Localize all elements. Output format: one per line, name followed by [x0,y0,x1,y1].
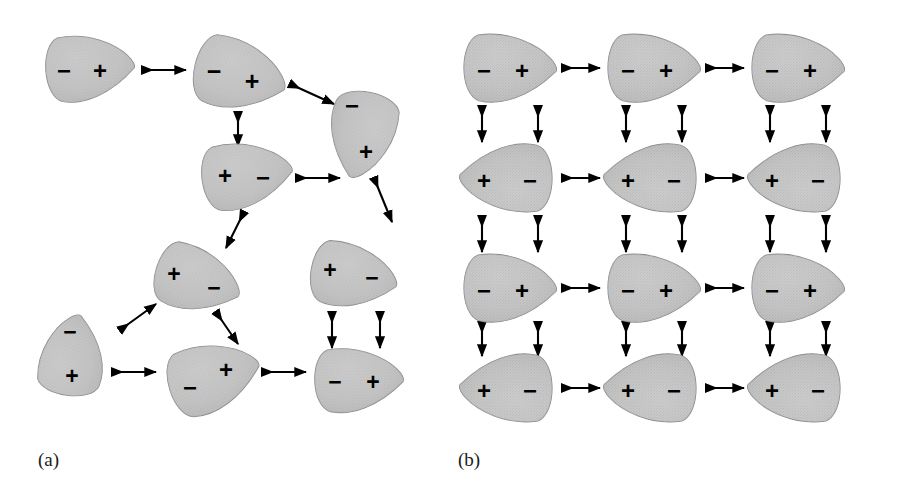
dipole-diagram: −+−+−+−+−+−+−+−+−+ −+−+−+−+−+−+−+−+−+−+−… [0,0,900,492]
plus-sign: + [167,261,180,287]
plus-sign: + [765,167,779,194]
minus-sign: − [523,377,537,404]
minus-sign: − [328,369,341,395]
minus-sign: − [63,319,76,345]
minus-sign: − [667,377,681,404]
plus-sign: + [803,277,817,304]
plus-sign: + [803,57,817,84]
plus-sign: + [218,162,232,189]
minus-sign: − [621,57,635,84]
minus-sign: − [256,164,270,191]
minus-sign: − [667,167,681,194]
minus-sign: − [345,92,359,119]
minus-sign: − [765,57,779,84]
plus-sign: + [359,138,373,165]
minus-sign: − [207,57,222,85]
plus-sign: + [65,363,78,389]
minus-sign: − [811,167,825,194]
figure-container: −+−+−+−+−+−+−+−+−+ −+−+−+−+−+−+−+−+−+−+−… [0,0,900,492]
panel-b-label: (b) [458,449,480,471]
plus-sign: + [245,67,260,95]
plus-sign: + [621,167,635,194]
plus-sign: + [366,369,379,395]
minus-sign: − [365,265,378,291]
plus-sign: + [659,277,673,304]
plus-sign: + [621,377,635,404]
plus-sign: + [219,356,233,383]
panel-a-label: (a) [38,449,59,471]
plus-sign: + [323,257,336,283]
minus-sign: − [477,57,491,84]
minus-sign: − [207,275,220,301]
plus-sign: + [659,57,673,84]
plus-sign: + [765,377,779,404]
minus-sign: − [765,277,779,304]
minus-sign: − [57,57,71,84]
plus-sign: + [477,167,491,194]
plus-sign: + [515,57,529,84]
minus-sign: − [523,167,537,194]
plus-sign: + [93,57,107,84]
minus-sign: − [477,277,491,304]
minus-sign: − [811,377,825,404]
plus-sign: + [477,377,491,404]
plus-sign: + [515,277,529,304]
minus-sign: − [621,277,635,304]
minus-sign: − [183,374,197,401]
